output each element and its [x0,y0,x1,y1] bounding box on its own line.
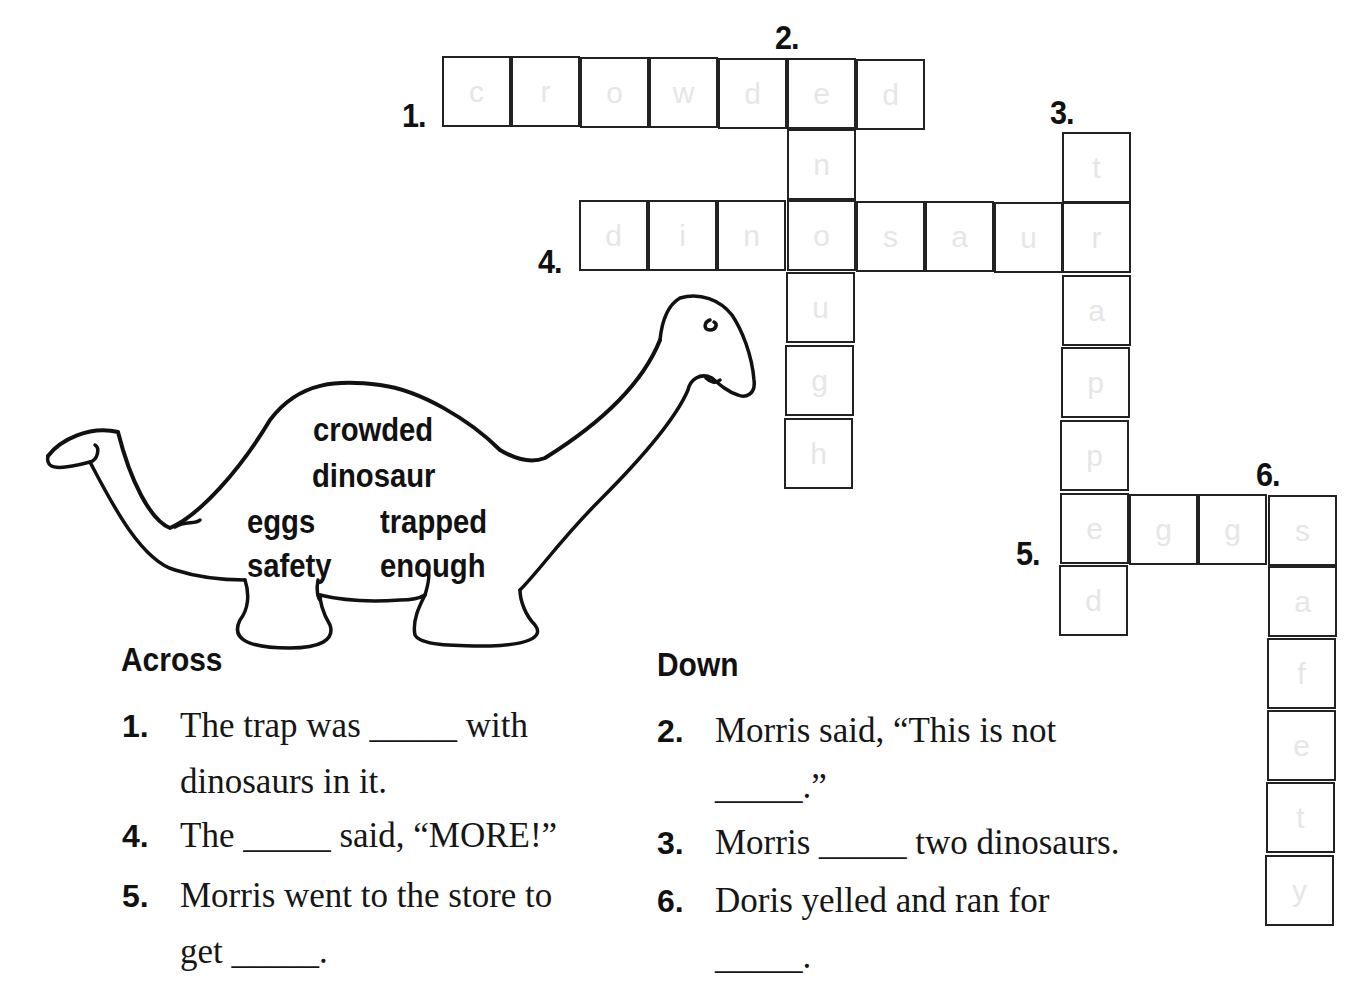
crossword-cell[interactable]: e [1267,710,1336,781]
across-clue-5: 5. Morris went to the store to get _____… [122,868,552,980]
clue-text: The trap was _____ with [180,698,528,754]
crossword-cell[interactable]: a [1062,275,1131,346]
clue-text: dinosaurs in it. [180,754,528,810]
down-clue-3: 3. Morris _____ two dinosaurs. [657,815,1119,871]
crossword-cell[interactable]: g [1198,494,1267,565]
crossword-cell[interactable]: u [994,202,1063,273]
crossword-cell[interactable]: t [1062,132,1131,203]
grid-number-3: 3. [1050,93,1074,132]
crossword-cell[interactable]: d [579,200,648,271]
grid-number-6: 6. [1256,455,1280,494]
grid-number-4: 4. [538,242,562,281]
crossword-cell[interactable]: n [787,129,856,200]
crossword-cell[interactable]: f [1267,638,1336,709]
crossword-cell[interactable]: p [1060,420,1129,491]
crossword-cell[interactable]: i [648,200,717,271]
crossword-cell[interactable]: y [1265,855,1334,926]
crossword-cell[interactable]: s [856,201,925,272]
crossword-cell[interactable]: p [1061,347,1130,418]
clue-number: 4. [122,808,180,864]
crossword-cell[interactable]: o [787,200,856,271]
down-clue-2: 2. Morris said, “This is not _____.” [657,703,1056,815]
crossword-cell[interactable]: r [1062,202,1131,273]
across-clue-1: 1. The trap was _____ with dinosaurs in … [122,698,528,810]
grid-number-1: 1. [402,96,426,135]
crossword-cell[interactable]: c [442,56,511,127]
word-bank-item: trapped [380,502,487,541]
crossword-cell[interactable]: a [925,201,994,272]
word-bank-item: dinosaur [312,456,435,495]
clue-number: 3. [657,815,715,871]
word-bank-item: enough [380,546,486,585]
clue-number: 6. [657,873,715,985]
clue-text: Morris went to the store to [180,868,552,924]
crossword-cell[interactable]: g [1129,494,1198,565]
word-bank-item: crowded [313,410,433,449]
crossword-cell[interactable]: t [1266,782,1335,853]
clue-text: _____.” [715,759,1056,815]
crossword-cell[interactable]: e [787,58,856,129]
across-clue-4: 4. The _____ said, “MORE!” [122,808,557,864]
crossword-cell[interactable]: d [1059,565,1128,636]
clue-text: Morris said, “This is not [715,703,1056,759]
crossword-cell[interactable]: d [856,59,925,130]
crossword-cell[interactable]: w [649,57,718,128]
grid-number-5: 5. [1016,534,1040,573]
clue-text: The _____ said, “MORE!” [180,808,557,864]
clue-text: Doris yelled and ran for [715,873,1049,929]
clue-text: get _____. [180,924,552,980]
word-bank-item: safety [247,546,332,585]
crossword-cell[interactable]: s [1268,495,1337,566]
crossword-cell[interactable]: n [717,200,786,271]
clue-text: Morris _____ two dinosaurs. [715,815,1119,871]
crossword-cell[interactable]: a [1268,566,1337,637]
down-clue-6: 6. Doris yelled and ran for _____. [657,873,1049,985]
word-bank-item: eggs [247,502,315,541]
clue-number: 2. [657,703,715,815]
crossword-cell[interactable]: g [785,345,854,416]
clue-number: 5. [122,868,180,980]
clue-text: _____. [715,929,1049,985]
grid-number-2: 2. [775,18,799,57]
crossword-cell[interactable]: e [1060,493,1129,564]
crossword-cell[interactable]: u [786,272,855,343]
clue-number: 1. [122,698,180,810]
crossword-cell[interactable]: h [784,418,853,489]
down-heading: Down [657,645,738,684]
crossword-cell[interactable]: r [511,56,580,127]
across-heading: Across [121,640,222,679]
crossword-cell[interactable]: d [718,58,787,129]
crossword-cell[interactable]: o [580,57,649,128]
